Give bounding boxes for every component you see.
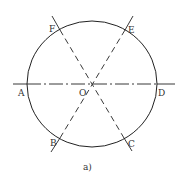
label-C: C: [128, 139, 135, 149]
label-F: F: [49, 24, 55, 34]
circle-division-diagram: F E A O D B C a): [0, 0, 185, 178]
label-B: B: [50, 138, 57, 148]
figure-caption: a): [83, 162, 92, 172]
label-A: A: [17, 88, 25, 98]
label-E: E: [128, 25, 135, 35]
label-O: O: [79, 88, 86, 98]
label-D: D: [158, 88, 165, 98]
